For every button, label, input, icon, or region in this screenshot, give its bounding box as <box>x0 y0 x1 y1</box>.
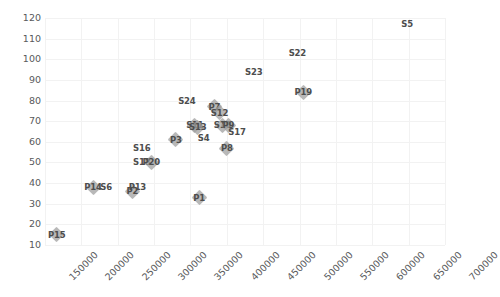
gridline-horizontal <box>45 142 445 143</box>
gridline-vertical <box>263 18 264 245</box>
gridline-horizontal <box>45 204 445 205</box>
data-point-label: S16 <box>133 144 150 153</box>
y-axis-tick-label: 110 <box>0 34 41 44</box>
y-axis-tick-label: 70 <box>0 116 41 126</box>
gridline-horizontal <box>45 224 445 225</box>
data-point-label: P3 <box>170 135 182 144</box>
data-point-label: P15 <box>48 230 65 239</box>
y-axis-tick-label: 60 <box>0 137 41 147</box>
gridline-horizontal <box>45 162 445 163</box>
data-point-label: S22 <box>289 49 306 58</box>
y-axis-tick-label: 20 <box>0 219 41 229</box>
x-axis: 1500002000002500003000003500004000004500… <box>45 245 445 297</box>
data-point-label: P20 <box>142 158 159 167</box>
gridline-horizontal <box>45 59 445 60</box>
x-axis-tick-label: 300000 <box>176 249 209 282</box>
y-axis-tick-label: 30 <box>0 199 41 209</box>
data-point-label: S23 <box>245 67 262 76</box>
plot-area: P15P14S6P2P13S18P20S16P3P1S24S11S13S4P7S… <box>45 18 445 245</box>
y-axis-tick-label: 10 <box>0 240 41 250</box>
gridline-vertical <box>81 18 82 245</box>
y-axis-tick-label: 40 <box>0 178 41 188</box>
gridline-horizontal <box>45 101 445 102</box>
gridline-vertical <box>45 18 46 245</box>
data-point-label: P14 <box>84 183 101 192</box>
x-axis-tick-label: 700000 <box>467 249 500 282</box>
x-axis-tick-label: 200000 <box>103 249 136 282</box>
x-axis-tick-label: 600000 <box>394 249 427 282</box>
y-axis-tick-label: 90 <box>0 75 41 85</box>
data-point-label: S6 <box>100 183 112 192</box>
data-point-label: P1 <box>193 193 205 202</box>
data-point-label: P13 <box>129 183 146 192</box>
data-point-label: S5 <box>401 20 413 29</box>
data-point-label: S4 <box>198 133 210 142</box>
x-axis-tick-label: 400000 <box>248 249 281 282</box>
x-axis-tick-label: 450000 <box>285 249 318 282</box>
y-axis: 102030405060708090100110120 <box>0 18 41 245</box>
gridline-horizontal <box>45 18 445 19</box>
y-axis-tick-label: 120 <box>0 13 41 23</box>
x-axis-tick-label: 150000 <box>67 249 100 282</box>
gridline-vertical <box>118 18 119 245</box>
x-axis-tick-label: 550000 <box>358 249 391 282</box>
y-axis-tick-label: 100 <box>0 54 41 64</box>
data-point-label: P8 <box>221 144 233 153</box>
data-point-label: S17 <box>228 127 245 136</box>
gridline-horizontal <box>45 121 445 122</box>
x-axis-tick-label: 650000 <box>430 249 463 282</box>
x-axis-tick-label: 350000 <box>212 249 245 282</box>
gridline-vertical <box>445 18 446 245</box>
x-axis-tick-label: 250000 <box>139 249 172 282</box>
gridline-horizontal <box>45 39 445 40</box>
y-axis-tick-label: 50 <box>0 157 41 167</box>
gridline-vertical <box>372 18 373 245</box>
data-point-label: S12 <box>211 108 228 117</box>
data-point-label: S24 <box>178 96 195 105</box>
gridline-vertical <box>336 18 337 245</box>
gridline-vertical <box>154 18 155 245</box>
x-axis-tick-label: 500000 <box>321 249 354 282</box>
y-axis-tick-label: 80 <box>0 96 41 106</box>
data-point-label: S13 <box>189 123 206 132</box>
gridline-vertical <box>409 18 410 245</box>
data-point-label: P19 <box>294 88 311 97</box>
gridline-horizontal <box>45 80 445 81</box>
